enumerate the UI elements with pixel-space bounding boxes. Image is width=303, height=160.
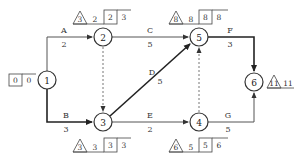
node-2-triangle-value: 3 [78, 15, 83, 24]
node-5-float: 8 [189, 15, 194, 24]
node-4-label: 4 [196, 118, 202, 128]
node-6-float: 11 [283, 79, 293, 88]
node-5-label: 5 [196, 33, 202, 43]
node-5-params: 8 8 8 8 [169, 10, 228, 24]
node-3-label: 3 [100, 118, 106, 128]
node-5-box-2: 8 [217, 13, 222, 22]
node-2-label: 2 [100, 33, 106, 43]
node-3-params: 3 3 3 3 [73, 138, 131, 152]
node-5: 5 [190, 28, 208, 46]
activity-b: B 3 [47, 89, 92, 134]
activity-b-name: B [63, 111, 69, 120]
activity-g-duration: 5 [225, 125, 230, 134]
node-2-box-1: 2 [108, 13, 113, 22]
activity-e-name: E [147, 111, 153, 120]
node-6: 6 [245, 73, 263, 91]
activity-b-duration: 3 [63, 125, 68, 134]
node-4-triangle-value: 6 [174, 143, 179, 152]
node-2: 2 [94, 28, 112, 46]
node-3: 3 [94, 113, 112, 131]
node-5-box-1: 8 [203, 13, 208, 22]
activity-d-name: D [149, 68, 155, 77]
node-3-float: 3 [93, 143, 98, 152]
node-6-label: 6 [251, 78, 257, 88]
activity-g: G 5 [208, 93, 254, 134]
node-4-float: 5 [189, 143, 194, 152]
node-2-float: 2 [93, 15, 98, 24]
node-1-value: 0 [27, 76, 32, 85]
activity-e-duration: 2 [147, 125, 152, 134]
activity-f: F 3 [208, 26, 254, 71]
node-1-label: 1 [44, 76, 50, 86]
activity-d-duration: 5 [157, 77, 162, 86]
node-2-box-2: 3 [122, 13, 127, 22]
node-4-params: 6 5 5 6 [169, 138, 228, 152]
node-3-box-2: 3 [122, 141, 127, 150]
node-3-triangle-value: 3 [78, 143, 83, 152]
node-2-params: 3 2 2 3 [73, 10, 131, 24]
activity-a-name: A [60, 26, 67, 35]
activity-f-name: F [227, 26, 233, 35]
node-4-box-2: 6 [217, 141, 222, 150]
activity-e: E 2 [112, 111, 188, 134]
node-4: 4 [190, 113, 208, 131]
activity-a: A 2 [47, 26, 92, 72]
node-4-box-1: 5 [203, 141, 208, 150]
activity-c: C 5 [112, 26, 188, 49]
activity-g-name: G [225, 111, 231, 120]
activity-c-duration: 5 [147, 40, 152, 49]
activity-f-duration: 3 [227, 40, 232, 49]
activity-d: D 5 [110, 44, 190, 116]
node-3-box-1: 3 [108, 141, 113, 150]
node-1: 1 [38, 71, 56, 89]
node-1-box-value: 0 [13, 76, 18, 85]
activity-a-duration: 2 [61, 40, 66, 49]
activity-c-name: C [147, 26, 153, 35]
node-1-params: 0 0 [9, 74, 36, 86]
node-6-params: 11 11 [267, 75, 294, 88]
network-diagram: A 2 B 3 C 5 D 5 E 2 F 3 G 5 [0, 0, 303, 160]
node-5-triangle-value: 8 [174, 15, 179, 24]
node-6-triangle-value: 11 [269, 79, 279, 88]
